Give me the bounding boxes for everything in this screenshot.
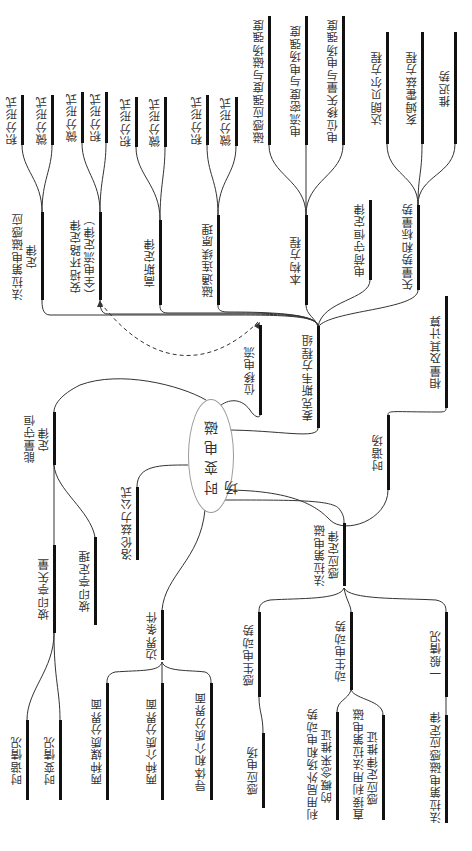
node-label: 微分形式: [148, 97, 162, 147]
node-label: 感生电动势: [242, 612, 256, 697]
node-bar: [94, 537, 97, 625]
node-label: 亥姆霍兹方程: [405, 32, 419, 144]
node-bar: [343, 523, 346, 586]
node-bar: [445, 715, 448, 823]
node-bar: [259, 325, 262, 415]
node-label: 积分形式: [119, 97, 133, 147]
node-bar: [159, 220, 162, 305]
node-label: 电位移矢量与电场强度: [326, 16, 340, 145]
node-bar: [26, 720, 29, 800]
node-bar: [382, 715, 385, 820]
node-bar: [53, 545, 56, 633]
node-bar: [81, 92, 84, 143]
node-label: 法拉第电磁感应 定律: [11, 212, 39, 300]
mind-map-canvas: 时变电磁场 麦克斯韦方程组法拉第电磁感应 定律安培环路定律 （全电流定律）高斯定…: [0, 0, 472, 851]
node-bar: [445, 612, 448, 697]
node-bar: [305, 215, 308, 305]
node-bar: [317, 326, 320, 428]
node-label: 坡印亭定理: [78, 537, 92, 625]
node-bar: [164, 97, 167, 147]
node-bar: [305, 16, 308, 145]
node-bar: [454, 32, 457, 144]
node-label: 利用局外场和电动势 的概念来推证: [306, 712, 334, 820]
node-bar: [136, 487, 139, 560]
node-label: 两种介质分界面: [145, 683, 159, 800]
node-bar: [217, 215, 220, 305]
node-bar: [342, 16, 345, 145]
node-label: 位移电流: [243, 325, 257, 415]
node-label: 本构方程: [289, 215, 303, 305]
node-bar: [350, 612, 353, 690]
dashed-link: [100, 302, 258, 356]
node-label: 导体和介质分界面: [194, 683, 208, 800]
node-bar: [336, 712, 339, 820]
node-bar: [417, 205, 420, 290]
node-label: 微分形式: [65, 92, 79, 143]
node-label: 感应电场: [246, 733, 260, 808]
node-bar: [135, 97, 138, 147]
node-bar: [387, 415, 390, 490]
node-bar: [210, 683, 213, 800]
node-label: 时谐场: [371, 415, 385, 490]
node-bar: [386, 32, 389, 144]
node-bar: [59, 720, 62, 800]
node-label: 电荷守恒定律: [353, 200, 367, 280]
node-label: 法拉第电磁感应定律: [429, 715, 443, 823]
node-bar: [41, 212, 44, 300]
node-label: 微分形式: [219, 97, 233, 146]
central-topic-label: 时变电磁场: [202, 415, 242, 495]
node-label: 相量及其计算: [429, 296, 443, 408]
node-bar: [445, 296, 448, 408]
node-label: 坡印亭矢量: [37, 545, 51, 633]
node-label: 电流密度与电场强度: [289, 16, 303, 145]
node-label: 麦克斯韦方程组: [301, 326, 315, 428]
node-bar: [235, 97, 238, 146]
node-bar: [105, 92, 108, 143]
node-bar: [53, 412, 56, 465]
node-bar: [268, 16, 271, 145]
node-bar: [421, 32, 424, 144]
node-label: 能量守恒 定律: [23, 412, 51, 465]
node-label: 推迟势: [438, 32, 452, 144]
node-bar: [206, 95, 209, 145]
node-bar: [262, 733, 265, 808]
node-label: 矢量势和标量势: [401, 205, 415, 290]
node-label: 一般情况: [429, 612, 443, 697]
node-bar: [161, 683, 164, 800]
node-bar: [369, 200, 372, 280]
node-label: 达朗贝尔方程: [370, 32, 384, 144]
node-label: 微分形式: [35, 95, 49, 145]
node-label: 动生电动势: [334, 612, 348, 690]
node-label: 法拉第电磁 感应定律: [313, 523, 341, 586]
node-bar: [21, 95, 24, 145]
node-label: 积分形式: [89, 92, 103, 143]
node-label: 磁通连续原理: [201, 215, 215, 305]
node-bar: [106, 683, 109, 800]
node-label: 磁感应强度与磁场强度: [252, 16, 266, 145]
node-label: 安培环路定律 （全电流定律）: [69, 212, 97, 300]
node-label: 两种媒质分界面: [90, 683, 104, 800]
node-label: 时谐情况: [10, 720, 24, 800]
node-label: 积分形式: [190, 95, 204, 145]
node-label: 洛伦兹力公式: [120, 487, 134, 560]
node-label: 边界条件: [145, 610, 159, 660]
node-label: 积分形式: [5, 95, 19, 145]
node-bar: [99, 212, 102, 300]
node-bar: [258, 612, 261, 697]
node-label: 高斯定律: [143, 220, 157, 305]
node-label: 时变情况: [43, 720, 57, 800]
node-bar: [51, 95, 54, 145]
node-bar: [161, 610, 164, 660]
node-label: 直接利用法拉第电磁 感应定律推证: [352, 715, 380, 820]
